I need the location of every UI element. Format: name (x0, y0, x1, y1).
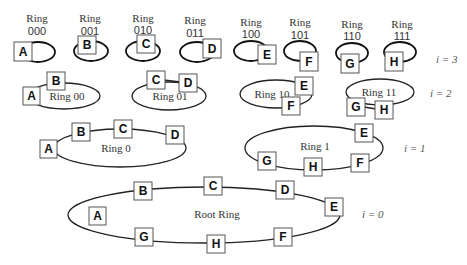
ring-011: Ring 011 D (180, 14, 221, 62)
ring-00: Ring 00 A B (23, 72, 100, 109)
level-label-1: i = 1 (404, 142, 425, 154)
svg-text:Ring: Ring (79, 12, 101, 24)
ring-111: Ring 111 H (384, 18, 416, 71)
node-a: A (14, 42, 32, 61)
svg-text:B: B (139, 184, 148, 198)
svg-text:H: H (380, 103, 389, 117)
ring-101: Ring 101 F (284, 16, 318, 71)
svg-text:B: B (52, 74, 61, 88)
svg-text:Ring: Ring (289, 16, 311, 28)
svg-text:H: H (390, 55, 399, 69)
svg-text:101: 101 (291, 29, 309, 41)
node-f: F (274, 228, 292, 246)
ring-label: Ring 1 (300, 140, 330, 152)
node-d: D (276, 181, 294, 199)
svg-text:E: E (330, 200, 338, 214)
ring-label: Ring 0 (101, 142, 131, 154)
node-c: C (204, 177, 222, 195)
node-d: D (179, 74, 197, 92)
svg-text:011: 011 (186, 27, 204, 39)
ring-100: Ring 100 E (234, 16, 276, 64)
level-2-rings: Ring 00 A B Ring 01 C D (23, 71, 452, 119)
ring-000: Ring 000 A (14, 12, 55, 62)
svg-text:Ring: Ring (341, 18, 363, 30)
node-g: G (347, 98, 365, 116)
svg-text:Ring: Ring (132, 12, 154, 24)
svg-text:Ring: Ring (184, 14, 206, 26)
node-d: D (166, 126, 184, 144)
svg-text:F: F (279, 230, 286, 244)
level-0-root-ring: Root Ring A B C D E F G (68, 177, 384, 253)
level-label-3: i = 3 (436, 53, 458, 65)
ring-01: Ring 01 C D (132, 71, 206, 110)
svg-text:D: D (281, 183, 290, 197)
ring-label: Ring 00 (49, 90, 85, 102)
node-c: C (137, 35, 155, 53)
svg-text:A: A (44, 142, 53, 156)
svg-text:100: 100 (242, 28, 260, 40)
ring-110: Ring 110 G (336, 18, 368, 73)
node-h: H (385, 52, 403, 71)
svg-text:111: 111 (394, 30, 411, 42)
ring-code: 000 (28, 25, 46, 37)
svg-text:F: F (356, 156, 363, 170)
svg-text:Ring: Ring (240, 16, 262, 28)
node-f: F (282, 97, 300, 115)
hierarchical-ring-diagram: Ring 000 A Ring 001 B Ring 010 C (0, 0, 467, 265)
node-b: B (47, 72, 65, 90)
ring-11: Ring 11 G H (346, 79, 414, 119)
node-f: F (351, 154, 369, 172)
level-1-rings: Ring 0 A B C D Ring 1 E (40, 120, 425, 176)
node-c: C (147, 71, 165, 89)
ring-label-word: Ring (26, 12, 48, 24)
svg-text:C: C (142, 37, 151, 51)
node-h: H (207, 235, 225, 253)
node-f: F (300, 52, 318, 71)
svg-text:E: E (300, 79, 308, 93)
svg-text:C: C (119, 122, 128, 136)
svg-text:A: A (27, 89, 36, 103)
node-b: B (78, 36, 96, 54)
ring-001: Ring 001 B (74, 12, 108, 61)
svg-text:C: C (152, 73, 161, 87)
node-g: G (258, 152, 276, 170)
node-b: B (134, 182, 152, 200)
node-g: G (135, 228, 153, 246)
node-c: C (114, 120, 132, 138)
level-label-0: i = 0 (362, 208, 384, 220)
node-a: A (40, 140, 57, 158)
ring-label: Root Ring (194, 208, 240, 220)
svg-text:001: 001 (81, 25, 99, 37)
node-e: E (295, 77, 313, 95)
level-3-rings: Ring 000 A Ring 001 B Ring 010 C (14, 12, 458, 73)
ring-1: Ring 1 E F G H (245, 124, 383, 176)
svg-text:E: E (263, 48, 271, 62)
node-h: H (304, 158, 322, 176)
node-h: H (375, 101, 393, 119)
svg-text:H: H (309, 160, 318, 174)
svg-text:B: B (83, 38, 92, 52)
node-e: E (355, 124, 373, 142)
svg-text:G: G (262, 154, 271, 168)
node-d: D (203, 39, 221, 58)
level-label-2: i = 2 (430, 87, 452, 99)
ring-010: Ring 010 C (126, 12, 160, 61)
svg-text:D: D (208, 42, 217, 56)
svg-text:H: H (212, 237, 221, 251)
svg-text:E: E (360, 126, 368, 140)
ring-0: Ring 0 A B C D (40, 120, 186, 167)
svg-text:G: G (345, 57, 354, 71)
node-e: E (325, 198, 343, 216)
svg-text:C: C (209, 179, 218, 193)
node-g: G (341, 54, 359, 73)
svg-text:G: G (139, 230, 148, 244)
svg-text:F: F (305, 55, 312, 69)
svg-text:D: D (184, 76, 193, 90)
svg-text:Ring: Ring (391, 18, 413, 30)
ring-label: Ring 11 (362, 86, 397, 98)
node-b: B (72, 123, 90, 141)
ring-10: Ring 10 E F (240, 77, 313, 115)
node-e: E (258, 45, 276, 64)
svg-text:010: 010 (134, 24, 152, 36)
svg-text:B: B (77, 125, 86, 139)
